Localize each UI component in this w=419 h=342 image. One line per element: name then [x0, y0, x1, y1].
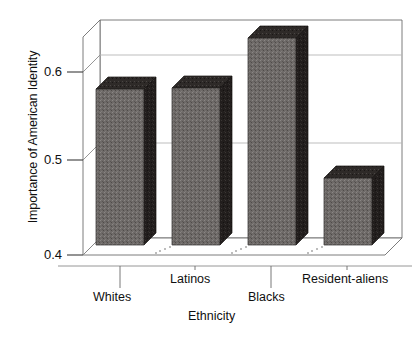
bar-chart: 0.6 0.5 0.4 Importance of American Ident…: [0, 0, 419, 342]
x-category-label-blacks: Blacks: [248, 290, 285, 304]
x-category-label-whites: Whites: [93, 290, 131, 304]
bar-latinos[interactable]: [172, 76, 232, 245]
y-axis-title: Importance of American Identity: [26, 12, 40, 262]
x-category-label-resident-aliens: Resident-aliens: [302, 272, 388, 286]
x-category-label-latinos: Latinos: [170, 272, 210, 286]
bar-blacks[interactable]: [248, 26, 308, 245]
plot-area: [0, 0, 419, 342]
bar-resident-aliens[interactable]: [324, 166, 384, 245]
bar-whites[interactable]: [96, 77, 156, 245]
x-axis-title: Ethnicity: [188, 309, 235, 323]
